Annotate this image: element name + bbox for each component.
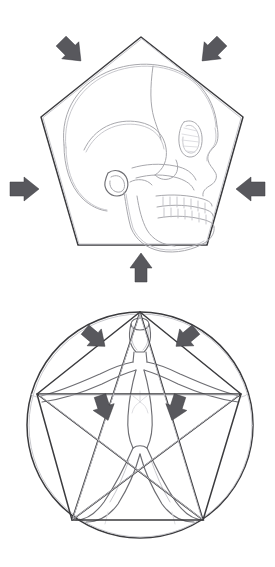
cranial-vault-outline (63, 64, 217, 145)
arrow-lower-left (90, 392, 119, 424)
figure-neck (133, 352, 147, 362)
ear-canal-inner (110, 176, 125, 193)
zygomatic-arch (132, 164, 196, 180)
arrow-right (236, 177, 265, 201)
figure-skull-pentagon (0, 0, 275, 284)
pentagram-arrows (78, 321, 203, 424)
figure-left-arm-bottom (42, 370, 136, 402)
right-thigh-shading (151, 460, 170, 502)
skull-pentagon-drawing (0, 0, 275, 284)
figure-pentagram-man (0, 284, 275, 567)
zygomatic-arch-lower (136, 175, 194, 190)
arrow-bottom (130, 253, 152, 282)
star-shadow-line (39, 314, 239, 519)
circumscribed-circle (27, 312, 253, 538)
lower-leg-marks (105, 512, 175, 524)
temporal-line-2 (86, 124, 164, 152)
circle-shadow-line (29, 314, 252, 537)
sketch-page (0, 0, 275, 567)
skull-drawing (63, 64, 218, 252)
figure-torso-left (128, 370, 136, 448)
figure-hips (133, 446, 147, 448)
mandible-body (124, 192, 206, 252)
mandible-ramus (137, 196, 175, 246)
coronal-suture (151, 66, 161, 140)
occipital-outline (64, 145, 107, 211)
condyle (130, 180, 152, 185)
left-thigh-shading (110, 460, 129, 502)
human-figure (31, 318, 247, 524)
arrow-top-left (53, 33, 90, 70)
temporal-line (84, 121, 166, 175)
pentagram-star (37, 312, 241, 520)
pentagram-man-drawing (0, 284, 275, 567)
arrow-left (10, 177, 39, 201)
figure-torso-right (144, 370, 152, 448)
occipital-outline-2 (66, 147, 107, 210)
figure-head-top (131, 318, 149, 330)
arrow-top-right (194, 33, 231, 70)
